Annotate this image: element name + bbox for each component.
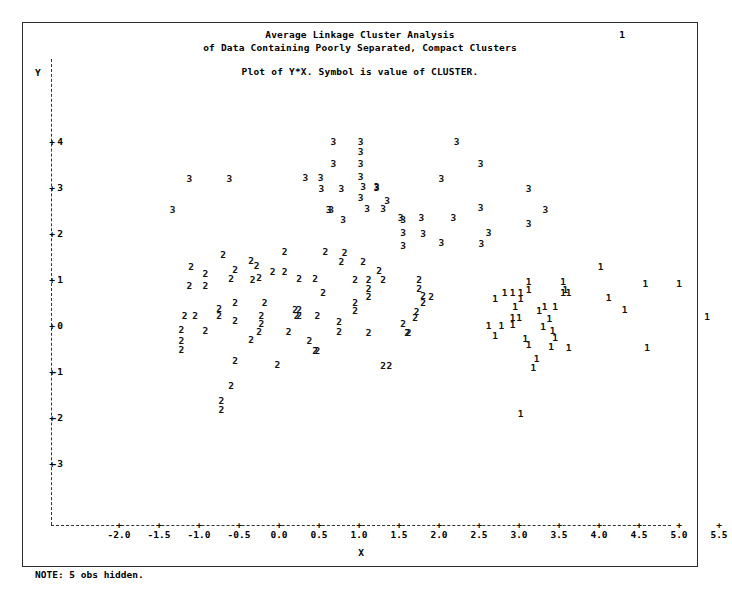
x-tick-mark: + (716, 521, 723, 529)
y-tick--3: -3+ (23, 458, 63, 470)
y-tick-label: 4 (57, 136, 63, 147)
data-point: 3 (477, 159, 484, 168)
y-tick--2: -2+ (23, 412, 63, 424)
data-point: 2 (256, 327, 263, 336)
data-point: 2 (216, 311, 223, 320)
y-tick-1: 1+ (23, 274, 63, 286)
data-point: 3 (525, 184, 532, 193)
data-point: 1 (704, 312, 711, 321)
x-tick-5.5: 5.5 (702, 529, 732, 540)
y-axis-line (51, 59, 52, 525)
data-point: 2 (202, 326, 209, 335)
x-tick-3.5: 3.5 (542, 529, 576, 540)
data-point: 3 (169, 205, 176, 214)
y-tick-label: 3 (57, 182, 63, 193)
data-point: 2 (232, 316, 239, 325)
data-point: 1 (548, 342, 555, 351)
data-point: 3 (542, 205, 549, 214)
data-point: 2 (428, 292, 435, 301)
data-point: 1 (565, 288, 572, 297)
data-point: 2 (338, 257, 345, 266)
data-point: 3 (226, 174, 233, 183)
x-tick--0.5: -0.5 (222, 529, 256, 540)
data-point: 1 (492, 294, 499, 303)
data-point: 3 (357, 172, 364, 181)
x-tick-mark: + (436, 521, 443, 529)
data-point: 1 (565, 343, 572, 352)
data-point: 3 (338, 184, 345, 193)
data-point: 3 (453, 137, 460, 146)
data-point: 2 (178, 345, 185, 354)
data-point: 2 (336, 317, 343, 326)
data-point: 2 (420, 298, 427, 307)
data-point: 2 (220, 250, 227, 259)
y-tick-0: 0+ (23, 320, 63, 332)
data-point: 3 (400, 241, 407, 250)
data-point: 2 (320, 288, 327, 297)
x-tick-mark: + (316, 521, 323, 529)
x-tick-4.0: 4.0 (582, 529, 616, 540)
x-tick-2.0: 2.0 (422, 529, 456, 540)
data-point: 2 (181, 311, 188, 320)
x-tick--1.5: -1.5 (142, 529, 176, 540)
x-axis-label: X (23, 547, 699, 558)
data-point: 3 (477, 203, 484, 212)
x-tick-5.0: 5.0 (662, 529, 696, 540)
data-point: 3 (330, 137, 337, 146)
data-point: 3 (485, 228, 492, 237)
data-point: 2 (365, 292, 372, 301)
data-point: 3 (317, 173, 324, 182)
data-point: 1 (512, 302, 519, 311)
data-point: 3 (400, 228, 407, 237)
data-point: 1 (546, 314, 553, 323)
data-point: 1 (597, 262, 604, 271)
x-tick-mark: + (476, 521, 483, 529)
data-point: 3 (357, 159, 364, 168)
x-tick-mark: + (156, 521, 163, 529)
data-point: 2 (192, 311, 199, 320)
data-point: 1 (485, 321, 492, 330)
data-point: 2 (296, 274, 303, 283)
x-tick-3.0: 3.0 (502, 529, 536, 540)
data-point: 1 (525, 285, 532, 294)
x-tick-mark: + (636, 521, 643, 529)
y-tick-mark: + (47, 136, 57, 148)
data-point: 2 (274, 360, 281, 369)
y-tick-label: 1 (57, 274, 63, 285)
data-point: 2 (352, 275, 359, 284)
data-point: 3 (400, 215, 407, 224)
data-point: 1 (525, 340, 532, 349)
x-tick-mark: + (196, 521, 203, 529)
y-tick-mark: + (47, 182, 57, 194)
x-tick-mark: + (356, 521, 363, 529)
data-point: 2 (314, 311, 321, 320)
data-point: 3 (478, 239, 485, 248)
data-point: 1 (530, 363, 537, 372)
data-point: 3 (318, 184, 325, 193)
data-point: 2 (306, 336, 313, 345)
data-point: 3 (418, 213, 425, 222)
data-point: 2 (261, 298, 268, 307)
data-point: 2 (186, 281, 193, 290)
data-point: 2 (202, 281, 209, 290)
data-point: 2 (322, 247, 329, 256)
y-tick-mark: + (47, 412, 57, 424)
data-point: 2 (228, 274, 235, 283)
data-point: 1 (536, 306, 543, 315)
x-tick-1.0: 1.0 (342, 529, 376, 540)
y-tick-mark: + (47, 274, 57, 286)
data-point: 2 (412, 313, 419, 322)
footnote-obs-hidden: NOTE: 5 obs hidden. (35, 569, 144, 580)
data-point: 2 (178, 325, 185, 334)
x-tick-mark: + (516, 521, 523, 529)
data-point: 2 (380, 275, 387, 284)
data-point: 1 (517, 409, 524, 418)
x-tick-mark: + (236, 521, 243, 529)
data-point: 2 (253, 261, 260, 270)
x-tick-mark: + (556, 521, 563, 529)
data-point: 2 (281, 247, 288, 256)
data-point: 2 (249, 275, 256, 284)
y-tick-mark: + (47, 458, 57, 470)
x-tick-0.0: 0.0 (262, 529, 296, 540)
report-frame: Average Linkage Cluster Analysis of Data… (22, 22, 698, 567)
